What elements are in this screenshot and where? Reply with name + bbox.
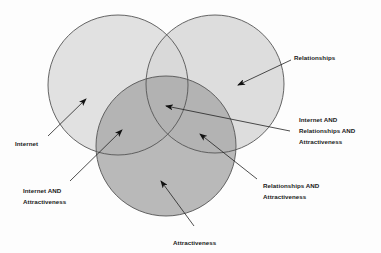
label-internet-attractiveness: Internet AND Attractiveness (23, 187, 67, 205)
label-attractiveness: Attractiveness (173, 239, 217, 246)
label-relationships-attractiveness: Relationships AND Attractiveness (263, 182, 321, 200)
label-relationships: Relationships (294, 54, 336, 61)
label-all-three: Internet AND Relationships AND Attractiv… (299, 116, 357, 145)
venn-diagram: Internet Relationships Internet AND Rela… (0, 0, 381, 253)
label-internet: Internet (15, 140, 38, 147)
